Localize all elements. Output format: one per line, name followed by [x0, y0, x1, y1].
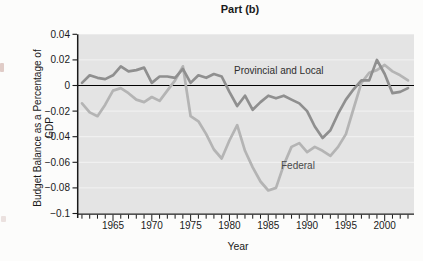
- series-label-federal: Federal: [281, 160, 315, 171]
- y-tick-label: 0.04: [51, 29, 71, 40]
- y-tick-label: 0.02: [51, 54, 71, 65]
- x-tick-label: 1985: [257, 220, 280, 231]
- page-edge-artifact: [1, 216, 6, 222]
- x-tick-label: 1975: [180, 220, 203, 231]
- y-tick-label: 0: [64, 80, 70, 91]
- y-tick-label: −0.06: [45, 157, 71, 168]
- y-tick-label: −0.1: [50, 208, 70, 219]
- x-tick-label: 2000: [374, 220, 397, 231]
- plot-background: [77, 34, 414, 213]
- x-tick-label: 1990: [296, 220, 319, 231]
- x-tick-label: 1965: [102, 220, 125, 231]
- x-tick-label: 1970: [141, 220, 164, 231]
- figure-part-b: Part (b) Budget Balance as a Percentage …: [0, 0, 423, 261]
- y-tick-label: −0.04: [45, 131, 71, 142]
- y-tick-label: −0.08: [45, 182, 71, 193]
- x-tick-label: 1995: [335, 220, 358, 231]
- page-edge-artifact: [0, 63, 4, 72]
- x-tick-label: 1980: [218, 220, 241, 231]
- x-axis-title: Year: [227, 240, 248, 252]
- plot-canvas: 0.040.020−0.02−0.04−0.06−0.08−0.11965197…: [0, 0, 423, 261]
- series-label-provincial-and-local: Provincial and Local: [234, 65, 324, 76]
- y-tick-label: −0.02: [45, 106, 71, 117]
